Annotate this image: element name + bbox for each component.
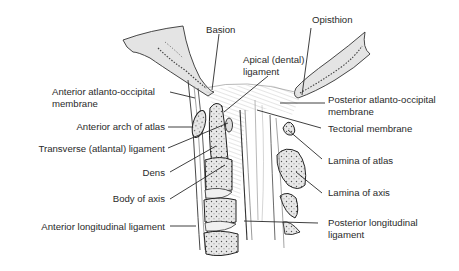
label-opisthion: Opisthion (312, 14, 353, 25)
label-body-of-axis: Body of axis (113, 193, 165, 204)
label-anterior-longitudinal-ligament: Anterior longitudinal ligament (41, 221, 165, 232)
label-tectorial-membrane: Tectorial membrane (328, 123, 412, 134)
label-posterior-atlanto-occipital-membrane-line1: Posterior atlanto-occipital (328, 94, 436, 105)
transverse-ligament (226, 118, 233, 132)
label-dens: Dens (143, 167, 165, 178)
label-apical-ligament-line2: ligament (243, 66, 279, 77)
anterior-arch-atlas-bone (190, 109, 209, 139)
lamina-axis-bone (277, 149, 306, 188)
label-posterior-atlanto-occipital-membrane-line2: membrane (328, 106, 374, 117)
label-basion: Basion (206, 24, 235, 35)
c4-lamina-bone (283, 222, 300, 235)
label-anterior-atlanto-occipital-membrane-line2: membrane (52, 98, 98, 109)
label-lamina-of-axis: Lamina of axis (328, 187, 390, 198)
label-transverse-ligament: Transverse (atlantal) ligament (38, 143, 165, 154)
label-lamina-of-atlas: Lamina of atlas (328, 155, 393, 166)
label-posterior-longitudinal-ligament-line1: Posterior longitudinal (328, 217, 418, 228)
label-posterior-longitudinal-ligament-line2: ligament (328, 229, 364, 240)
label-apical-ligament-line1: Apical (dental) (243, 54, 304, 65)
label-anterior-arch-of-atlas: Anterior arch of atlas (76, 121, 165, 132)
label-anterior-atlanto-occipital-membrane-line1: Anterior atlanto-occipital (52, 86, 155, 97)
lamina-atlas-bone (283, 122, 295, 135)
